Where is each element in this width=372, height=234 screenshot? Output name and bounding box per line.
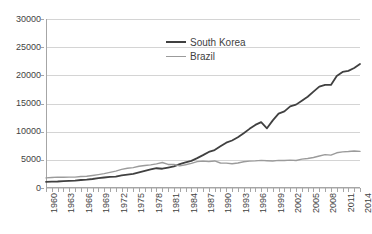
x-tickmark [354, 188, 355, 192]
x-tick-label: 1987 [207, 193, 216, 213]
y-tick-label: 10000 [0, 127, 41, 136]
x-tickmark [215, 188, 216, 192]
x-tick-label: 2011 [347, 193, 356, 212]
x-tickmark [360, 188, 361, 192]
x-tickmark [313, 188, 314, 192]
x-tickmark [174, 188, 175, 192]
x-tickmark [290, 188, 291, 192]
x-tickmark [226, 188, 227, 192]
x-tick-label: 1996 [259, 193, 268, 213]
x-tickmark [127, 188, 128, 192]
legend-item-south-korea[interactable]: South Korea [166, 35, 296, 49]
x-tickmark [58, 188, 59, 192]
x-tickmark [331, 188, 332, 192]
x-tickmark [255, 188, 256, 192]
x-tick-label: 1978 [155, 193, 164, 213]
x-tickmark [348, 188, 349, 192]
x-tick-label: 2005 [312, 193, 321, 213]
x-tickmark [69, 188, 70, 192]
x-tickmark [308, 188, 309, 192]
x-tickmark [250, 188, 251, 192]
x-tick-label: 1993 [242, 193, 251, 213]
x-tickmark [267, 188, 268, 192]
x-axis: 1960196319661969197219751978198119841987… [46, 193, 360, 231]
line-swatch-gray-icon [166, 56, 186, 57]
y-tickmark [41, 75, 44, 76]
x-tickmark [220, 188, 221, 192]
x-tickmark [232, 188, 233, 192]
x-tickmark [209, 188, 210, 192]
x-tick-label: 1984 [190, 193, 199, 213]
legend-item-brazil[interactable]: Brazil [166, 49, 296, 63]
y-axis: 050001000015000200002500030000 [0, 19, 41, 188]
x-tick-label: 1969 [102, 193, 111, 213]
x-tickmark [63, 188, 64, 192]
x-tick-label: 1981 [172, 193, 181, 213]
y-tick-label: 5000 [0, 155, 41, 164]
y-tickmark [41, 104, 44, 105]
x-tickmark [110, 188, 111, 192]
x-tickmark [81, 188, 82, 192]
x-tickmark [151, 188, 152, 192]
x-tickmark [319, 188, 320, 192]
y-tickmark [41, 160, 44, 161]
y-tickmark [41, 19, 44, 20]
x-tick-label: 2008 [329, 193, 338, 213]
x-tickmark [261, 188, 262, 192]
x-tickmark [145, 188, 146, 192]
line-chart: 050001000015000200002500030000 196019631… [0, 0, 372, 234]
x-tickmark [238, 188, 239, 192]
x-tick-label: 2014 [364, 193, 372, 213]
y-tick-label: 15000 [0, 99, 41, 108]
x-tick-label: 1999 [277, 193, 286, 213]
x-tickmark [116, 188, 117, 192]
y-tickmark [41, 188, 44, 189]
y-tickmark [41, 132, 44, 133]
legend-label-brazil: Brazil [190, 51, 215, 62]
legend-label-south-korea: South Korea [190, 37, 246, 48]
x-tickmark [98, 188, 99, 192]
x-tickmark [191, 188, 192, 192]
x-tickmark [296, 188, 297, 192]
x-tickmark [75, 188, 76, 192]
x-tick-label: 1990 [224, 193, 233, 213]
x-tick-label: 1975 [137, 193, 146, 213]
x-tickmark [244, 188, 245, 192]
y-tick-label: 20000 [0, 71, 41, 80]
legend: South Korea Brazil [166, 35, 296, 63]
x-tickmark [93, 188, 94, 192]
x-tickmark [325, 188, 326, 192]
x-tickmark [279, 188, 280, 192]
x-tickmark [122, 188, 123, 192]
x-tickmark [197, 188, 198, 192]
y-tick-label: 0 [0, 184, 41, 193]
x-tick-label: 1963 [67, 193, 76, 213]
y-tickmark [41, 47, 44, 48]
line-swatch-dark-icon [166, 41, 186, 43]
x-tick-label: 1966 [85, 193, 94, 213]
x-tickmark [186, 188, 187, 192]
x-tickmark [52, 188, 53, 192]
x-tickmark [104, 188, 105, 192]
x-tickmark [180, 188, 181, 192]
x-tickmark [168, 188, 169, 192]
x-tickmark [203, 188, 204, 192]
series-line-south-korea [46, 64, 360, 182]
x-tickmark [284, 188, 285, 192]
x-tick-label: 1972 [120, 193, 129, 213]
x-tickmark [337, 188, 338, 192]
x-tick-label: 2002 [294, 193, 303, 213]
x-tickmark [162, 188, 163, 192]
y-tick-label: 25000 [0, 43, 41, 52]
x-tickmark [139, 188, 140, 192]
x-tickmark [46, 188, 47, 192]
x-tickmark [343, 188, 344, 192]
x-tickmark [302, 188, 303, 192]
x-tickmark [156, 188, 157, 192]
x-tickmark [87, 188, 88, 192]
x-tickmark [273, 188, 274, 192]
x-tick-label: 1960 [50, 193, 59, 213]
y-tick-label: 30000 [0, 15, 41, 24]
x-tickmark [133, 188, 134, 192]
